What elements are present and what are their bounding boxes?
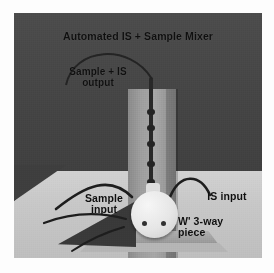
valve-port-icon: [161, 221, 166, 226]
annotation-title: Automated IS + Sample Mixer: [40, 31, 236, 42]
annotation-sample-is-output: Sample + IS output: [55, 67, 141, 89]
annotation-output-line-2: output: [55, 78, 141, 89]
annotation-title-line: Automated IS + Sample Mixer: [40, 31, 236, 42]
annotation-three-way-piece: W' 3-way piece: [178, 216, 248, 239]
figure-root: Automated IS + Sample Mixer Sample + IS …: [0, 0, 274, 273]
annotation-sample-input-line-2: input: [69, 204, 139, 215]
valve-port-icon: [142, 221, 147, 226]
sample-input-tubing-tail: [72, 227, 124, 251]
annotation-valve-line-2: piece: [178, 227, 248, 238]
laboratory-photograph: Automated IS + Sample Mixer Sample + IS …: [14, 13, 262, 258]
annotation-is-input-line: IS input: [196, 191, 258, 202]
annotation-is-input: IS input: [196, 191, 258, 202]
annotation-sample-input: Sample input: [69, 193, 139, 216]
